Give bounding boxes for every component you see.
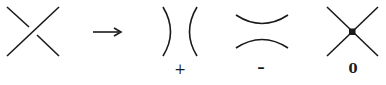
diagram-canvas bbox=[0, 0, 386, 85]
label-minus: – bbox=[251, 60, 271, 75]
singular-crossing-figure bbox=[327, 7, 378, 56]
top-arc bbox=[236, 15, 288, 24]
label-plus: + bbox=[170, 62, 190, 76]
right-arc bbox=[190, 7, 198, 56]
bottom-arc bbox=[236, 40, 288, 49]
negative-smoothing-figure bbox=[236, 15, 288, 48]
double-point-dot bbox=[349, 29, 356, 36]
label-zero: 0 bbox=[343, 62, 363, 75]
positive-smoothing-figure bbox=[163, 7, 197, 56]
left-arc bbox=[163, 7, 171, 56]
under-strand-lower bbox=[37, 35, 59, 56]
under-strand-upper bbox=[7, 7, 29, 27]
arrow-right-icon bbox=[93, 28, 121, 36]
crossing-figure bbox=[7, 7, 59, 56]
